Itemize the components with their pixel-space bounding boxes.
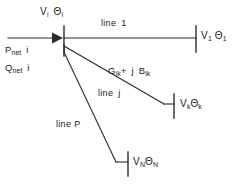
bus-1-voltage-symbol: V (201, 30, 208, 41)
q-net-injection-label: Qneti (5, 63, 30, 73)
susceptance-subscript: ik (145, 70, 150, 77)
line-P-label-text: line (56, 119, 71, 129)
bus-N-voltage-angle-label: VNΘN (133, 157, 158, 167)
bus-N-voltage-subscript: N (140, 161, 145, 168)
bus-i-voltage-angle-label: ViΘi (40, 7, 63, 17)
line-1-label-number: 1 (121, 18, 126, 28)
net-injection-arrow-icon (52, 33, 63, 44)
bus-N-angle-symbol: Θ (145, 156, 153, 167)
q-net-subscript: net (13, 67, 23, 74)
conductance-symbol: G (108, 65, 116, 76)
p-net-symbol: P (5, 44, 12, 55)
line-P-label-number: P (74, 119, 80, 129)
conductance-subscript: ik (116, 70, 121, 77)
power-system-one-line-diagram: ViΘi Pneti Qneti line1 Gik+jBik linej li… (0, 0, 241, 187)
line-1-label-text: line (101, 18, 116, 28)
bus-i-angle-subscript: i (61, 11, 63, 18)
admittance-plus-sign: + (121, 65, 127, 76)
bus-1-angle-subscript: 1 (223, 35, 227, 42)
bus-k-voltage-angle-label: VkΘk (180, 99, 202, 109)
q-net-index: i (27, 62, 29, 73)
bus-k-voltage-subscript: k (187, 103, 191, 110)
p-net-subscript: net (12, 49, 22, 56)
bus-i-voltage-symbol: V (40, 6, 47, 17)
q-net-symbol: Q (5, 62, 13, 73)
line-j-label-text: line (98, 88, 113, 98)
bus-1-voltage-subscript: 1 (208, 35, 212, 42)
p-net-index: i (26, 44, 28, 55)
line-j-label: linej (98, 89, 121, 98)
bus-k-angle-subscript: k (198, 103, 202, 110)
bus-N-angle-subscript: N (153, 161, 158, 168)
line-1-label: line1 (101, 19, 127, 28)
p-net-injection-label: Pneti (5, 45, 29, 55)
bus-1-voltage-angle-label: V1Θ1 (201, 31, 227, 41)
bus-N-voltage-symbol: V (133, 156, 140, 167)
bus-k-voltage-symbol: V (180, 98, 187, 109)
line-admittance-label: Gik+jBik (108, 66, 150, 76)
imaginary-unit-symbol: j (131, 65, 133, 76)
line-j-label-number: j (118, 88, 120, 98)
line-P-label: lineP (56, 120, 81, 129)
bus-1-angle-symbol: Θ (215, 30, 223, 41)
